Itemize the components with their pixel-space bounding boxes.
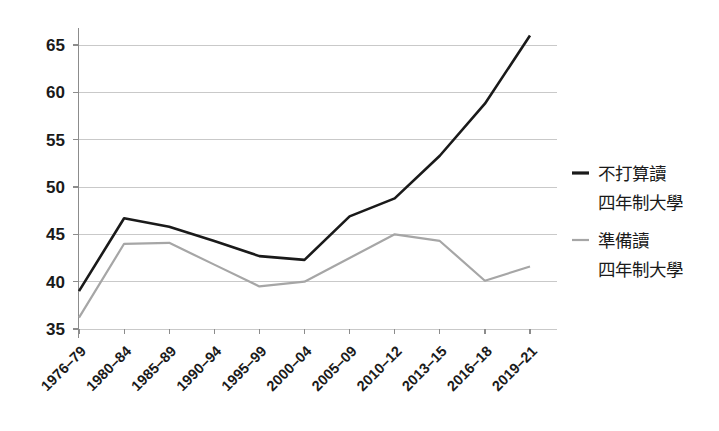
x-tick-label: 1976–79: [38, 343, 89, 394]
y-axis: [73, 28, 79, 338]
chart-canvas: 35404550556065 1976–791980–841985–891990…: [0, 0, 719, 431]
series-line-1: [79, 36, 530, 292]
x-tick-label: 2016–18: [444, 343, 495, 394]
x-axis-tickmarks: [79, 329, 530, 334]
x-tick-label: 1980–84: [83, 343, 134, 394]
chart-legend: 不打算讀四年制大學準備讀四年制大學: [572, 164, 683, 280]
x-tick-label: 2013–15: [399, 343, 450, 394]
y-tick-label: 55: [46, 131, 65, 150]
y-tick-label: 65: [46, 36, 65, 55]
x-tick-label: 1985–89: [128, 343, 179, 394]
x-tick-label: 2005–09: [308, 343, 359, 394]
x-tick-label: 2019–21: [489, 343, 540, 394]
x-axis-tick-labels: 1976–791980–841985–891990–941995–992000–…: [38, 343, 540, 394]
legend-label-1-line1: 不打算讀: [598, 164, 666, 184]
x-tick-label: 2000–04: [263, 343, 314, 394]
y-tick-label: 45: [46, 225, 65, 244]
legend-label-2-line1: 準備讀: [598, 231, 649, 251]
y-tick-label: 40: [46, 273, 65, 292]
y-tick-label: 60: [46, 83, 65, 102]
x-tick-label: 1995–99: [218, 343, 269, 394]
gridlines: [79, 45, 558, 329]
x-tick-label: 1990–94: [173, 343, 224, 394]
series-line-2: [79, 234, 530, 317]
x-tick-label: 2010–12: [354, 343, 405, 394]
y-axis-tick-labels: 35404550556065: [46, 36, 65, 339]
data-series: [79, 36, 530, 318]
y-tick-label: 50: [46, 178, 65, 197]
legend-label-2-line2: 四年制大學: [598, 260, 683, 280]
legend-label-1-line2: 四年制大學: [598, 193, 683, 213]
y-tick-label: 35: [46, 320, 65, 339]
line-chart: 35404550556065 1976–791980–841985–891990…: [0, 0, 719, 431]
